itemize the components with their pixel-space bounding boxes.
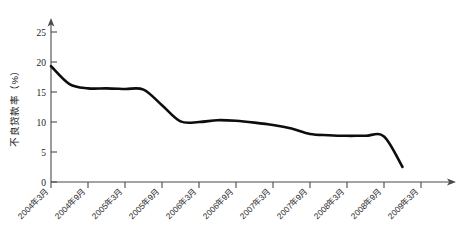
x-tick-label-4: 2006年3月 xyxy=(164,186,199,221)
x-tick-label-7: 2007年9月 xyxy=(275,186,310,221)
x-tick-label-0: 2004年3月 xyxy=(16,186,51,221)
x-tick-label-8: 2008年3月 xyxy=(312,186,347,221)
y-tick-label-10: 10 xyxy=(37,118,47,128)
y-axis-label: 不良贷款率（%） xyxy=(9,65,20,147)
npl-ratio-line-chart: 不良贷款率（%） 0 5 10 15 20 25 xyxy=(0,0,473,245)
npl-ratio-series-line xyxy=(51,66,403,167)
y-axis-tick-labels: 0 5 10 15 20 25 xyxy=(37,28,47,188)
y-axis-label-text: 不良贷款率（%） xyxy=(9,65,20,147)
y-tick-label-0: 0 xyxy=(41,178,46,188)
x-tick-label-2: 2005年3月 xyxy=(90,186,125,221)
y-axis-ticks xyxy=(51,32,57,182)
y-axis xyxy=(48,18,55,182)
x-tick-label-6: 2007年3月 xyxy=(238,186,273,221)
x-axis-ticks xyxy=(51,182,421,188)
x-tick-label-3: 2005年9月 xyxy=(127,186,162,221)
y-tick-label-5: 5 xyxy=(41,148,46,158)
x-tick-label-9: 2008年9月 xyxy=(349,186,384,221)
x-axis xyxy=(51,178,456,185)
y-tick-label-25: 25 xyxy=(37,28,47,38)
y-tick-label-20: 20 xyxy=(37,58,47,68)
x-axis-tick-labels: 2004年3月 2004年9月 2005年3月 2005年9月 2006年3月 … xyxy=(16,186,421,221)
x-tick-label-5: 2006年9月 xyxy=(201,186,236,221)
chart-container: 不良贷款率（%） 0 5 10 15 20 25 xyxy=(0,0,473,245)
x-tick-label-10: 2009年3月 xyxy=(386,186,421,221)
x-tick-label-1: 2004年9月 xyxy=(53,186,88,221)
y-tick-label-15: 15 xyxy=(37,88,47,98)
